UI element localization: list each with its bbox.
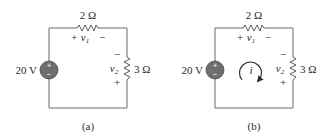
resistor-3ohm-icon [290, 57, 296, 80]
v2-minus: − [114, 48, 120, 60]
circuit-diagrams: + − 20 V 2 Ω + v1 − − v2 + 3 Ω (a) + − 2… [0, 0, 332, 137]
v2-minus: − [280, 48, 286, 60]
source-plus-sign: + [47, 61, 52, 70]
source-plus-sign: + [213, 61, 218, 70]
v1-minus: − [265, 31, 271, 43]
circuit-a: + − 20 V 2 Ω + v1 − − v2 + 3 Ω (a) [16, 9, 151, 133]
resistor-right-label: 3 Ω [134, 63, 150, 75]
source-minus-sign: − [213, 70, 218, 79]
voltage-source-icon: + − [40, 61, 58, 79]
v1-label: v1 [247, 31, 255, 45]
circuit-b: + − 20 V 2 Ω + v1 − − v2 + 3 Ω i (b) [182, 9, 317, 133]
v1-label: v1 [81, 31, 89, 45]
resistor-3ohm-icon [124, 57, 130, 80]
source-minus-sign: − [47, 70, 52, 79]
caption-b: (b) [248, 120, 261, 133]
caption-a: (a) [82, 120, 95, 133]
v2-plus: + [280, 76, 286, 88]
source-voltage-label: 20 V [16, 64, 38, 76]
source-voltage-label: 20 V [182, 64, 204, 76]
v2-plus: + [114, 76, 120, 88]
current-label: i [249, 64, 252, 76]
resistor-top-label: 2 Ω [246, 9, 262, 21]
v1-plus: + [237, 31, 243, 43]
v2-label: v2 [110, 62, 119, 76]
voltage-source-icon: + − [206, 61, 224, 79]
resistor-right-label: 3 Ω [300, 63, 316, 75]
resistor-top-label: 2 Ω [80, 9, 96, 21]
v1-minus: − [99, 31, 105, 43]
v1-plus: + [71, 31, 77, 43]
v2-label: v2 [276, 62, 285, 76]
